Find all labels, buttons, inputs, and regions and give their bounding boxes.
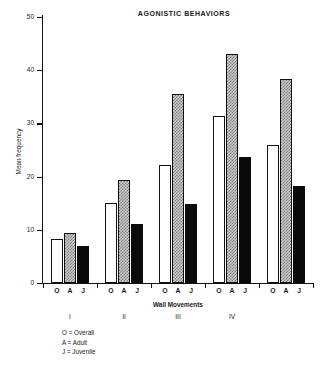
- y-tick-label-wrap: 0: [8, 283, 34, 284]
- bar-o-group-5: [267, 145, 279, 283]
- y-tick-label: 30: [10, 120, 34, 127]
- bar-o-group-4: [213, 116, 225, 283]
- x-tick-label-a: A: [279, 287, 293, 294]
- y-tick-mark: [37, 70, 42, 71]
- y-tick-label: 40: [10, 67, 34, 74]
- plot-area: [43, 17, 313, 283]
- x-group-separator: [259, 283, 260, 288]
- x-group-separator: [43, 283, 44, 288]
- y-tick-mark: [37, 177, 42, 178]
- y-tick-label: 20: [10, 173, 34, 180]
- y-tick-mark: [37, 123, 42, 124]
- bar-a-group-4: [226, 54, 238, 283]
- x-tick-label-a: A: [225, 287, 239, 294]
- bar-a-group-1: [64, 233, 76, 283]
- x-tick-label-j: J: [292, 287, 306, 294]
- y-tick-label: 50: [10, 13, 34, 20]
- x-tick-label-o: O: [212, 287, 226, 294]
- y-tick-label: 10: [10, 226, 34, 233]
- x-tick-label-j: J: [76, 287, 90, 294]
- x-tick-label-j: J: [130, 287, 144, 294]
- x-group-separator: [97, 283, 98, 288]
- bar-j-group-4: [239, 157, 251, 283]
- chart-legend: O = OverallA = AdultJ = Juvenile: [62, 328, 95, 357]
- x-axis-title: Wall Movements: [43, 301, 313, 308]
- x-tick-label-a: A: [117, 287, 131, 294]
- group-label-1: I: [58, 313, 82, 320]
- x-tick-label-a: A: [171, 287, 185, 294]
- x-tick-label-o: O: [104, 287, 118, 294]
- y-tick-label: 0: [10, 279, 34, 286]
- group-label-3: III: [166, 313, 190, 320]
- x-tick-label-a: A: [63, 287, 77, 294]
- x-group-separator: [151, 283, 152, 288]
- group-label-2: II: [112, 313, 136, 320]
- x-group-separator: [313, 283, 314, 288]
- agonistic-behaviors-bar-chart: AGONISTIC BEHAVIORS Mean frequency 01020…: [0, 0, 328, 369]
- legend-line-1: O = Overall: [62, 328, 95, 338]
- legend-line-2: A = Adult: [62, 338, 95, 348]
- chart-title: AGONISTIC BEHAVIORS: [104, 10, 264, 17]
- y-tick-mark: [37, 230, 42, 231]
- y-tick-mark: [37, 17, 42, 18]
- bar-j-group-1: [77, 246, 89, 283]
- x-tick-label-o: O: [158, 287, 172, 294]
- bar-a-group-2: [118, 180, 130, 283]
- y-tick-label-wrap: 20: [8, 177, 34, 178]
- y-tick-label-wrap: 10: [8, 230, 34, 231]
- bar-o-group-1: [51, 239, 63, 283]
- legend-line-3: J = Juvenile: [62, 347, 95, 357]
- y-tick-mark: [37, 283, 42, 284]
- bar-o-group-3: [159, 165, 171, 283]
- x-tick-label-j: J: [184, 287, 198, 294]
- group-label-4: IV: [220, 313, 244, 320]
- x-tick-label-o: O: [266, 287, 280, 294]
- bar-j-group-5: [293, 186, 305, 283]
- x-group-separator: [205, 283, 206, 288]
- bar-j-group-2: [131, 224, 143, 283]
- x-tick-label-o: O: [50, 287, 64, 294]
- x-tick-label-j: J: [238, 287, 252, 294]
- bar-o-group-2: [105, 203, 117, 283]
- bar-a-group-3: [172, 94, 184, 283]
- bar-a-group-5: [280, 79, 292, 283]
- y-tick-label-wrap: 30: [8, 123, 34, 124]
- y-tick-label-wrap: 40: [8, 70, 34, 71]
- bar-j-group-3: [185, 204, 197, 283]
- y-tick-label-wrap: 50: [8, 17, 34, 18]
